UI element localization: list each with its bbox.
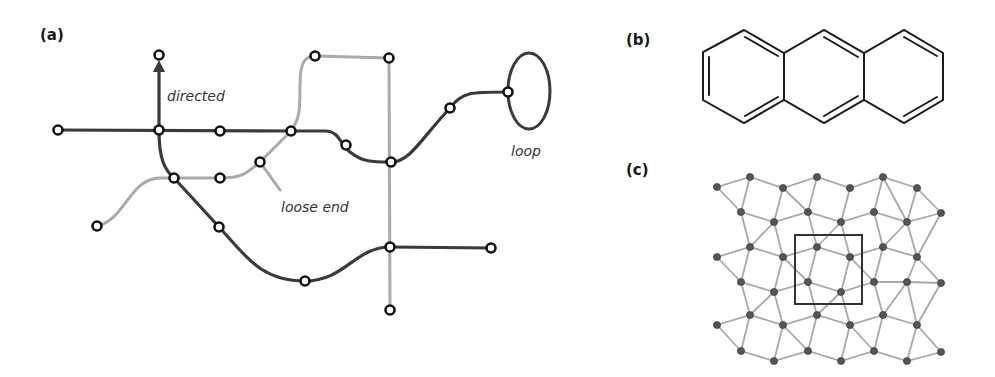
lattice-node [837,288,844,295]
panel-a-label: (a) [40,26,64,44]
lattice-node [813,173,820,180]
lattice-node [870,208,877,215]
directed-label: directed [167,88,225,104]
lattice-node [903,278,910,285]
panel-c: (c) [626,161,945,365]
lattice-node [779,253,786,260]
lattice-node [804,278,811,285]
lattice-node [737,278,744,285]
lattice-node [879,173,886,180]
lattice-node [913,184,920,191]
lattice-node [737,347,744,354]
lattice-node [813,243,820,250]
lattice-node [870,347,877,354]
lattice-node [937,209,944,216]
lattice-node [804,347,811,354]
lattice-node [746,311,753,318]
panel-a-light-edges [97,56,390,310]
lattice-node [713,183,720,190]
lattice-node [770,288,777,295]
panel-a-dark-edges [58,53,550,281]
lattice-node [903,357,910,364]
panel-b: (b) [626,30,943,123]
lattice-node [879,243,886,250]
lattice-node [804,208,811,215]
figure-canvas: (a) [0,0,995,377]
panel-b-label: (b) [626,31,650,49]
lattice-node [713,321,720,328]
lattice-node [746,243,753,250]
lattice-node [837,218,844,225]
lattice-node [937,279,944,286]
panel-c-label: (c) [626,161,649,179]
lattice-node [713,253,720,260]
lattice-node [737,208,744,215]
lattice-node [770,357,777,364]
lattice-node [846,253,853,260]
lattice-node [746,173,753,180]
unit-cell-box [795,235,862,304]
lattice-node [870,278,877,285]
lattice-node [813,311,820,318]
arrow-head-icon [153,60,165,72]
lattice-node [937,348,944,355]
self-loop [508,53,550,129]
panel-a-nodes [54,51,513,315]
lattice-edges [717,177,941,361]
lattice-node [913,321,920,328]
panel-a: (a) [40,26,550,315]
loose-end-label: loose end [281,199,349,215]
lattice-node [837,357,844,364]
lattice-node [779,184,786,191]
lattice-node [779,321,786,328]
lattice-node [770,218,777,225]
lattice-node [846,321,853,328]
lattice-node [879,311,886,318]
lattice-node [913,253,920,260]
lattice-nodes [713,173,944,364]
lattice-node [846,184,853,191]
anthracene-molecule [703,30,943,123]
loop-label: loop [511,143,541,159]
lattice-node [903,218,910,225]
